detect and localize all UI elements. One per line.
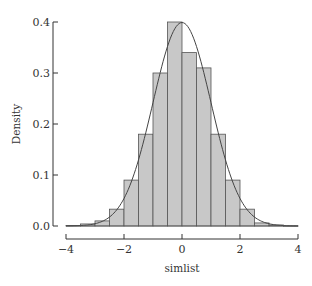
histogram-bar [139, 134, 154, 226]
histogram-bar [211, 134, 226, 226]
x-axis: −4−2024 [58, 234, 302, 256]
histogram-bar [182, 53, 197, 226]
x-axis-title: simlist [164, 262, 200, 274]
y-tick-label: 0.3 [33, 67, 51, 80]
x-tick-label: −2 [116, 243, 132, 256]
histogram-bar [168, 22, 183, 226]
histogram-bar [124, 180, 139, 226]
histogram-chart: 0.00.10.20.30.4 −4−2024 Density simlist [0, 0, 312, 286]
x-tick-label: 2 [237, 243, 244, 256]
x-tick-label: −4 [58, 243, 74, 256]
y-tick-label: 0.4 [33, 16, 51, 29]
histogram-bar [153, 73, 168, 226]
histogram-bar [226, 180, 241, 226]
y-tick-label: 0.2 [33, 118, 51, 131]
x-tick-label: 0 [179, 243, 186, 256]
x-tick-label: 4 [295, 243, 302, 256]
y-axis: 0.00.10.20.30.4 [33, 16, 59, 233]
y-axis-title: Density [10, 104, 22, 144]
histogram-bar [110, 209, 125, 226]
y-tick-label: 0.0 [33, 220, 51, 233]
histogram-bars [66, 22, 298, 226]
y-tick-label: 0.1 [33, 169, 51, 182]
histogram-bar [240, 209, 255, 226]
